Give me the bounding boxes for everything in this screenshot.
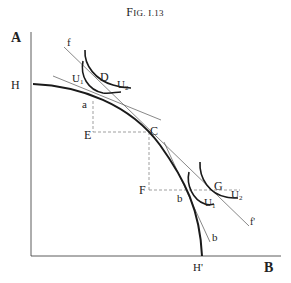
label-H: H — [11, 78, 20, 92]
label-U2-lower: U2 — [231, 188, 243, 202]
x-axis-label: B — [264, 260, 273, 275]
label-U1-upper: U1 — [72, 72, 84, 86]
label-point-F: F — [139, 183, 146, 197]
label-tangent-b: b — [212, 231, 218, 243]
label-f: f — [67, 36, 71, 48]
tangent-lines — [53, 47, 249, 242]
label-point-a: a — [82, 98, 87, 110]
label-point-G: G — [214, 179, 223, 193]
label-point-E: E — [84, 128, 91, 142]
label-H-prime: H' — [193, 261, 203, 273]
label-f-prime: f' — [250, 216, 255, 227]
transformation-curve — [33, 84, 202, 256]
label-point-D: D — [100, 70, 109, 84]
label-point-b: b — [177, 192, 183, 204]
label-U1-lower: U1 — [204, 196, 216, 210]
diagram-canvas: FIG. I.13 A B H H' f f' a C b b D G E F … — [0, 0, 291, 283]
dashed-guides — [93, 101, 240, 190]
label-U2-upper: U2 — [117, 78, 129, 92]
label-point-C: C — [150, 124, 158, 138]
figure-title: FIG. I.13 — [126, 5, 164, 19]
y-axis-label: A — [11, 30, 22, 45]
